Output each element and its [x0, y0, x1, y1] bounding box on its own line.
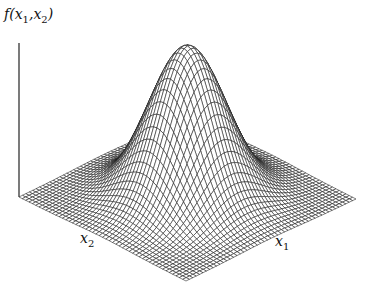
x2-axis-label: x2: [80, 230, 94, 249]
x1-axis-label: x1: [275, 233, 289, 252]
surface-plot: [0, 0, 368, 291]
z-axis-label: f(x1,x2): [4, 6, 53, 25]
gaussian-surface-mesh: [19, 45, 356, 281]
